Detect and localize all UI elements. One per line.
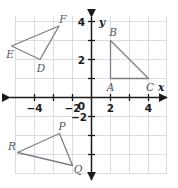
y-axis [88,17,95,180]
y-tick-label--2: −2 [71,111,87,123]
triangle-pqr [18,134,73,166]
vertex-label-p: P [57,120,66,132]
vertex-label-a: A [106,81,115,93]
vertex-label-c: C [146,81,154,93]
x-axis [10,94,167,101]
y-axis-label: y [98,16,106,28]
x-tick-label-4: 4 [145,102,152,114]
vertex-label-q: Q [74,163,83,176]
vertex-label-d: D [36,62,46,74]
vertex-label-r: R [7,140,16,152]
x-tick-label--4: −4 [26,102,42,114]
x-axis-label: x [157,81,165,93]
vertex-label-f: F [58,13,67,25]
x-tick-label-2: 2 [107,102,114,114]
vertex-label-b: B [108,26,117,38]
vertex-label-e: E [5,48,14,60]
triangle-def [12,26,60,60]
coordinate-plane-figure: −4 −2 2 4 4 2 −2 0 y x A B C D E F P Q R [0,0,178,188]
y-tick-label-4: 4 [78,16,85,28]
origin-label: 0 [78,100,85,112]
coordinate-plane-svg: −4 −2 2 4 4 2 −2 0 y x A B C D E F P Q R [0,0,178,188]
y-tick-label-2: 2 [78,54,85,66]
